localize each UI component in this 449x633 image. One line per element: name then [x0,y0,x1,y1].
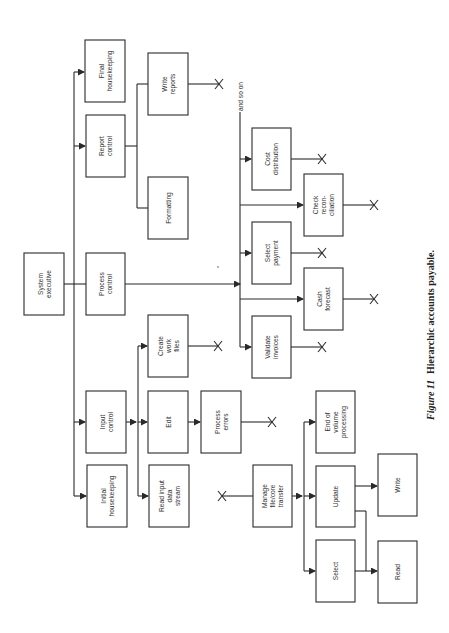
svg-text:Systemexecutive: Systemexecutive [37,270,52,298]
svg-text:Selectpayment: Selectpayment [264,240,280,265]
svg-text:Validateinvoices: Validateinvoices [264,334,279,359]
and-so-on-note: and so on [237,82,244,111]
figure-title: Hierarchic accounts payable. [425,250,436,374]
node-edit[interactable]: Edit [148,391,188,453]
node-manage-file-core-transfer[interactable]: Managefile/coretransfer [253,465,292,527]
node-cost-distribution[interactable]: Costdistribution [252,128,291,190]
node-write-reports[interactable]: Writereports [148,53,188,115]
svg-text:Processcontrol: Processcontrol [98,271,113,296]
node-validate-invoices[interactable]: Validateinvoices [252,316,291,378]
node-write[interactable]: Write [378,454,417,516]
node-create-work-files[interactable]: Createworkfiles [148,315,188,377]
node-read[interactable]: Read [378,541,417,603]
svg-text:Select: Select [332,562,339,580]
node-system-executive[interactable]: Systemexecutive [24,253,64,315]
stray-dot [217,266,219,268]
svg-text:Edit: Edit [165,416,172,428]
node-initial-housekeeping[interactable]: Initialhousekeeping [87,465,127,527]
figure-caption: Figure 11 Hierarchic accounts payable. [425,250,436,421]
node-update[interactable]: Update [316,466,355,527]
svg-text:Managefile/coretransfer: Managefile/coretransfer [261,484,284,508]
svg-text:Read: Read [394,564,401,580]
node-cash-forecast[interactable]: Cashforecast [304,268,343,330]
hierarchy-diagram: and so on Systemexecutive Finalhousekeep… [0,0,449,633]
node-final-housekeeping[interactable]: Finalhousekeeping [85,40,125,102]
svg-text:Reportcontrol: Reportcontrol [98,136,113,156]
svg-text:Update: Update [332,486,340,508]
node-select-payment[interactable]: Selectpayment [252,222,291,284]
figure-label: Figure 11 [425,380,436,421]
svg-text:Write: Write [394,477,401,493]
node-report-control[interactable]: Reportcontrol [86,115,125,177]
node-select[interactable]: Select [316,540,355,602]
svg-text:Checkrecon-ciliation: Checkrecon-ciliation [312,194,335,216]
node-formatting[interactable]: Formatting [148,177,188,239]
node-process-control[interactable]: Processcontrol [86,253,125,315]
node-end-of-volume-processing[interactable]: End ofvolumeprocessing [316,391,355,453]
svg-text:Formatting: Formatting [165,192,173,224]
node-read-input-data-stream[interactable]: Read inputdatastream [149,465,189,527]
node-check-reconciliation[interactable]: Checkrecon-ciliation [304,174,343,236]
node-input-control[interactable]: Inputcontrol [86,391,126,453]
node-process-errors[interactable]: Processerrors [201,391,241,453]
